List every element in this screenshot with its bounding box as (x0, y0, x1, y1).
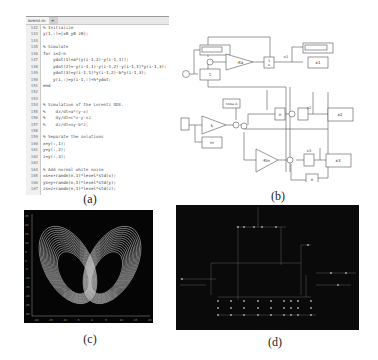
new-tab-button[interactable]: + (49, 17, 58, 24)
y-tick-label: -10 (25, 276, 30, 280)
tab-label: lorenz.m (28, 18, 45, 23)
y-tick-label: -20 (25, 294, 30, 298)
x-tick-label: -10 (63, 318, 68, 322)
y-tick-label: -15 (25, 285, 30, 289)
x-tick-label: 20 (148, 318, 152, 322)
const-1-label: 1 (209, 72, 212, 77)
simulink-diagram: 1 -Ka 1 s x1 x1 noise A k m × x2 x2 -Km … (178, 2, 376, 182)
svg-text:x3: x3 (336, 158, 341, 163)
x-tick-label: -20 (34, 318, 39, 322)
x-tick-label: 5 (105, 318, 107, 322)
y-tick-label: 0 (25, 259, 27, 263)
y-tick-label: 25 (25, 214, 29, 218)
svg-text:m: m (210, 140, 214, 145)
clock-block (183, 71, 190, 78)
code-body[interactable]: 1421431441451461471481491501511521531541… (26, 25, 169, 195)
y-tick-label: -5 (25, 267, 28, 271)
y-tick-label: 15 (25, 232, 29, 236)
x-tick-label: 10 (120, 318, 124, 322)
x-tick-label: -5 (77, 318, 80, 322)
y-tick-label: 5 (25, 250, 27, 254)
circuit-svg (176, 205, 359, 330)
caption-a: (a) (70, 192, 110, 207)
gain-a-label: -Ka (237, 60, 244, 65)
lorenz-svg: 2520151050-5-10-15-20-25-30-20-15-10-505… (24, 210, 153, 323)
svg-text:x1: x1 (284, 55, 288, 59)
svg-text:x2: x2 (307, 106, 311, 110)
svg-text:x1: x1 (316, 60, 321, 65)
svg-text:x3: x3 (307, 149, 311, 153)
x-tick-label: -15 (48, 318, 53, 322)
y-tick-label: -25 (25, 303, 30, 307)
caption-d: (d) (255, 335, 295, 350)
svg-text:×: × (278, 112, 281, 117)
x-tick-label: 15 (134, 318, 138, 322)
svg-text:s: s (268, 63, 270, 67)
line-number-gutter: 1421431441451461471481491501511521531541… (26, 25, 41, 195)
svg-text:-Km: -Km (262, 158, 270, 163)
y-tick-label: 10 (25, 241, 29, 245)
lorenz-attractor-plot: 2520151050-5-10-15-20-25-30-20-15-10-505… (24, 210, 153, 323)
code-lines: % Initializey(1,:)=[x0 y0 z0];% Simulate… (43, 25, 169, 192)
caption-b: (b) (258, 189, 298, 204)
code-editor: lorenz.m × + 142143144145146147148149150… (26, 16, 169, 195)
y-tick-label: -30 (25, 312, 30, 316)
simulink-svg: 1 -Ka 1 s x1 x1 noise A k m × x2 x2 -Km … (178, 2, 376, 182)
caption-c: (c) (70, 332, 110, 347)
line-number: 167 (26, 186, 40, 192)
circuit-view (176, 205, 359, 330)
x-tick-label: 0 (91, 318, 93, 322)
tab-lorenz-file[interactable]: lorenz.m × (26, 17, 51, 24)
y-tick-label: 20 (25, 223, 29, 227)
svg-text:noise A: noise A (226, 102, 238, 106)
svg-text:×: × (310, 177, 313, 182)
editor-tab-bar: lorenz.m × + (26, 17, 169, 25)
svg-text:x2: x2 (338, 112, 343, 117)
